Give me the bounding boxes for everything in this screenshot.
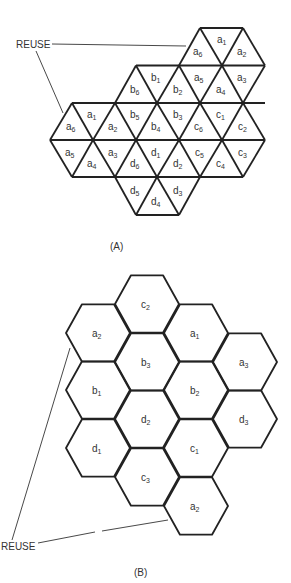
tri-label: b2	[173, 84, 183, 96]
hex-label: c3	[141, 472, 150, 484]
tri-label: c6	[194, 121, 203, 133]
reuse-leader-line	[36, 51, 63, 113]
tri-label: d1	[151, 147, 161, 159]
tri-label: a6	[193, 46, 203, 58]
tri-label: a3	[237, 72, 247, 84]
hex-label: b1	[92, 385, 102, 397]
hex-label: b3	[141, 357, 151, 369]
tri-label: a5	[194, 72, 204, 84]
tri-label: d4	[151, 196, 161, 208]
hex-label: c1	[190, 443, 199, 455]
tri-label: a4	[216, 84, 226, 96]
tri-label: c3	[238, 147, 247, 159]
panel-b-cell-labels: c2 a2 a1 b3 a3 b1 b2 d2 d3 d1 c1 c3 a2	[92, 299, 249, 513]
panel-a-caption: (A)	[110, 241, 123, 252]
hex-label: d1	[92, 443, 102, 455]
reuse-label: REUSE	[1, 541, 36, 552]
tri-label: d6	[130, 158, 140, 170]
tri-label: a1	[87, 109, 97, 121]
tri-label: a6	[66, 121, 76, 133]
tri-label: c5	[195, 147, 204, 159]
tri-label: a4	[87, 158, 97, 170]
panel-a-triangle-grid	[50, 28, 265, 215]
tri-label: a5	[65, 147, 75, 159]
panel-b-reuse-callout: REUSE	[1, 348, 168, 552]
reuse-label: REUSE	[16, 39, 51, 50]
tri-label: a1	[217, 34, 227, 46]
tri-label: b6	[130, 84, 140, 96]
hex-label: a2	[92, 328, 102, 340]
tri-label: c4	[216, 158, 225, 170]
tri-label: a2	[237, 46, 247, 58]
hex-label: d2	[141, 414, 151, 426]
tri-label: d2	[173, 158, 183, 170]
tri-label: a3	[108, 147, 118, 159]
hex-label: c2	[141, 299, 150, 311]
panel-b-hex-grid	[66, 275, 277, 534]
panel-a-reuse-callout: REUSE	[16, 39, 186, 113]
tri-label: b3	[173, 109, 183, 121]
tri-label: a2	[108, 121, 118, 133]
tri-label: c2	[238, 121, 247, 133]
tri-label: d3	[173, 185, 183, 197]
tri-label: c1	[216, 109, 225, 121]
tri-label: b5	[130, 109, 140, 121]
hex-label: b2	[190, 385, 200, 397]
hex-label: a2	[190, 501, 200, 513]
hex-label: d3	[239, 414, 249, 426]
hex-label: a1	[190, 328, 200, 340]
tri-label: d5	[130, 185, 140, 197]
reuse-leader-line	[52, 44, 186, 46]
reuse-leader-line	[12, 348, 70, 540]
frequency-reuse-figure: a6 a1 a2 b6 b1 b2 a5 a4 a3 a6 a1 a2 b5 b…	[0, 0, 291, 583]
tri-label: b1	[151, 72, 161, 84]
hex-label: a3	[239, 357, 249, 369]
reuse-leader-line	[102, 520, 168, 531]
tri-label: b4	[151, 121, 161, 133]
reuse-leader-line	[38, 532, 95, 543]
panel-b-caption: (B)	[134, 567, 147, 578]
